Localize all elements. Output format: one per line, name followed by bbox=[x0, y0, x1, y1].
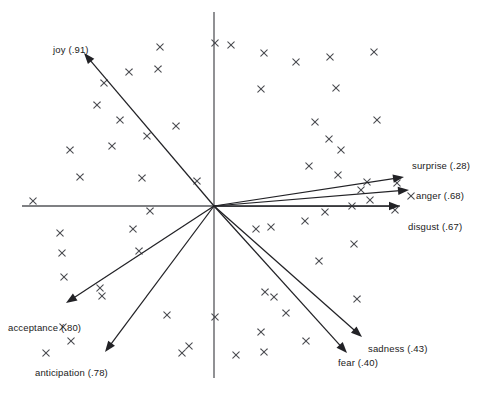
scatter-point bbox=[126, 69, 132, 75]
scatter-point bbox=[179, 350, 185, 356]
scatter-point bbox=[358, 187, 364, 193]
scatter-point bbox=[408, 193, 414, 199]
scatter-point bbox=[258, 86, 264, 92]
scatter-point bbox=[268, 224, 274, 230]
scatter-point bbox=[327, 54, 333, 60]
scatter-point bbox=[271, 294, 277, 300]
scatter-point bbox=[109, 143, 115, 149]
vector-label-anticipation: anticipation (.78) bbox=[35, 367, 108, 378]
scatter-point bbox=[354, 296, 360, 302]
scatter-point bbox=[253, 226, 259, 232]
scatter-point bbox=[283, 310, 289, 316]
scatter-point bbox=[157, 44, 163, 50]
scatter-point bbox=[293, 59, 299, 65]
scatter-point bbox=[57, 230, 63, 236]
vector-label-acceptance: acceptance (.80) bbox=[8, 322, 81, 333]
vector-shaft-acceptance bbox=[74, 206, 214, 298]
vector-acceptance bbox=[66, 206, 214, 303]
scatter-point bbox=[351, 241, 357, 247]
scatter-point bbox=[326, 136, 332, 142]
scatter-point bbox=[374, 117, 380, 123]
scatter-point bbox=[117, 117, 123, 123]
scatter-point bbox=[164, 312, 170, 318]
vector-joy bbox=[84, 53, 214, 206]
scatter-point bbox=[99, 293, 105, 299]
scatter-point bbox=[155, 66, 161, 72]
emotion-vector-scatter-figure: joy (.91)surprise (.28)anger (.68)disgus… bbox=[0, 0, 482, 401]
scatter-point bbox=[228, 42, 234, 48]
vector-disgust bbox=[214, 202, 400, 210]
scatter-point bbox=[212, 40, 218, 46]
scatter-point bbox=[303, 338, 309, 344]
vector-sadness bbox=[214, 206, 362, 337]
scatter-point bbox=[212, 314, 218, 320]
scatter-point bbox=[97, 285, 103, 291]
plot-canvas bbox=[0, 0, 482, 401]
scatter-point bbox=[77, 174, 83, 180]
vector-arrowhead-anger bbox=[398, 187, 409, 195]
scatter-point bbox=[59, 250, 65, 256]
vectors-group bbox=[66, 53, 409, 353]
scatter-point bbox=[30, 198, 36, 204]
scatter-point bbox=[147, 208, 153, 214]
vector-anticipation bbox=[105, 206, 214, 352]
scatter-point bbox=[186, 343, 192, 349]
vector-label-disgust: disgust (.67) bbox=[408, 221, 462, 232]
vector-label-anger: anger (.68) bbox=[416, 190, 464, 201]
scatter-point bbox=[67, 147, 73, 153]
scatter-point bbox=[61, 274, 67, 280]
scatter-point bbox=[233, 352, 239, 358]
scatter-point bbox=[312, 119, 318, 125]
scatter-point bbox=[94, 102, 100, 108]
scatter-point bbox=[367, 197, 373, 203]
scatter-point bbox=[333, 85, 339, 91]
scatter-point bbox=[306, 163, 312, 169]
vector-label-fear: fear (.40) bbox=[338, 357, 378, 368]
vector-label-surprise: surprise (.28) bbox=[412, 160, 470, 171]
vector-shaft-fear bbox=[214, 206, 341, 346]
scatter-point bbox=[316, 258, 322, 264]
scatter-point bbox=[261, 349, 267, 355]
scatter-point bbox=[173, 123, 179, 129]
vector-anger bbox=[214, 187, 409, 206]
vector-label-sadness: sadness (.43) bbox=[368, 343, 428, 354]
scatter-point bbox=[335, 172, 341, 178]
scatter-point bbox=[338, 147, 344, 153]
scatter-point bbox=[101, 80, 107, 86]
scatter-point bbox=[130, 226, 136, 232]
vector-fear bbox=[214, 206, 347, 353]
scatter-point bbox=[144, 133, 150, 139]
vector-shaft-joy bbox=[90, 60, 214, 206]
scatter-point bbox=[139, 175, 145, 181]
vector-arrowhead-anticipation bbox=[105, 341, 115, 352]
scatter-point bbox=[68, 338, 74, 344]
scatter-point bbox=[302, 218, 308, 224]
scatter-point bbox=[43, 350, 49, 356]
scatter-point bbox=[371, 49, 377, 55]
vector-arrowhead-acceptance bbox=[66, 293, 78, 303]
vector-shaft-anticipation bbox=[110, 206, 214, 345]
scatter-point bbox=[261, 50, 267, 56]
scatter-point bbox=[262, 289, 268, 295]
vector-surprise bbox=[214, 175, 404, 206]
vector-label-joy: joy (.91) bbox=[53, 44, 89, 55]
scatter-point bbox=[322, 209, 328, 215]
scatter-points-group bbox=[30, 40, 414, 358]
scatter-point bbox=[258, 329, 264, 335]
